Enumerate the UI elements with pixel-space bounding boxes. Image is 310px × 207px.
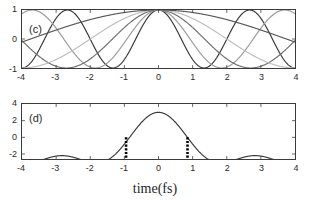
panel-c-curve-4 xyxy=(22,10,295,68)
panel-c-plot-area xyxy=(21,9,296,69)
panel-c-xtick-label: -4 xyxy=(11,73,31,82)
panel-d-xtick-label: -4 xyxy=(11,164,31,173)
panel-c-xtick-label: 1 xyxy=(183,73,203,82)
panel-d-label: (d) xyxy=(29,113,42,124)
panel-d-xtick-label: -3 xyxy=(45,164,65,173)
panel-d-xtick-label: 4 xyxy=(286,164,306,173)
x-axis-title: time(fs) xyxy=(0,182,310,196)
panel-c-ytick-label: 0 xyxy=(0,35,17,44)
panel-c-label: (c) xyxy=(29,24,42,35)
panel-c-xtick-label: -1 xyxy=(114,73,134,82)
panel-c-xtick-label: 0 xyxy=(149,73,169,82)
panel-c-xtick-label: -2 xyxy=(80,73,100,82)
panel-c-xtick-label: 4 xyxy=(286,73,306,82)
figure-container: (c) (d) time(fs) 10-1420-2-4-3-2-101234-… xyxy=(0,0,310,207)
panel-c-curve-2 xyxy=(22,10,295,68)
panel-d-ytick-label: 4 xyxy=(0,99,17,108)
panel-d-ytick-label: 0 xyxy=(0,133,17,142)
panel-d-xtick-label: 0 xyxy=(149,164,169,173)
panel-d-xtick-label: 3 xyxy=(252,164,272,173)
panel-c-xtick-label: -3 xyxy=(45,73,65,82)
panel-d-sum-curve xyxy=(22,112,295,159)
panel-c-xtick-label: 2 xyxy=(217,73,237,82)
panel-c-xtick-label: 3 xyxy=(252,73,272,82)
panel-d-plot-area xyxy=(21,103,296,160)
panel-d-xtick-label: -1 xyxy=(114,164,134,173)
panel-d-ytick-label: -2 xyxy=(0,150,17,159)
panel-d-xtick-label: 1 xyxy=(183,164,203,173)
panel-d-ytick-label: 2 xyxy=(0,116,17,125)
panel-d-xtick-label: 2 xyxy=(217,164,237,173)
panel-c-curve-1 xyxy=(22,10,295,68)
panel-d-canvas xyxy=(22,104,295,159)
panel-c-ytick-label: 1 xyxy=(0,5,17,14)
panel-c-canvas xyxy=(22,10,295,68)
panel-d-xtick-label: -2 xyxy=(80,164,100,173)
panel-c-curve-3 xyxy=(22,10,295,68)
